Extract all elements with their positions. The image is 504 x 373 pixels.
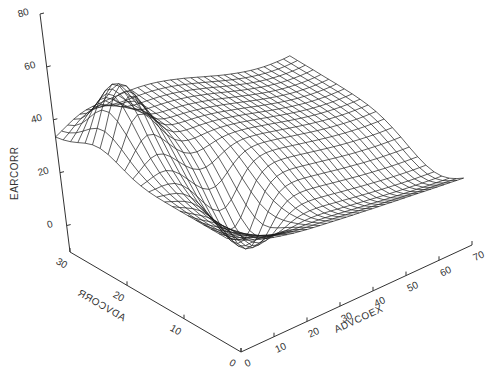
- z-tick-label: 40: [30, 112, 44, 126]
- mesh-line: [62, 128, 234, 239]
- mesh-line: [219, 179, 457, 238]
- y-tick-label: 10: [168, 322, 184, 337]
- z-axis-title: EARCORR: [9, 146, 20, 200]
- z-tick: [67, 225, 71, 226]
- z-tick-label: 60: [23, 59, 37, 73]
- mesh-line: [290, 56, 464, 179]
- z-tick: [53, 119, 57, 120]
- mesh-line: [112, 98, 288, 246]
- mesh-line: [74, 94, 248, 240]
- z-axis-line: [40, 14, 70, 252]
- y-tick-label: 20: [111, 289, 127, 304]
- surface-plot: 0102030405060700102030020406080 EARCORR …: [0, 0, 504, 373]
- x-tick-label: 10: [273, 340, 288, 355]
- wireframe-mesh: [56, 56, 464, 249]
- z-tick-label: 80: [16, 6, 30, 20]
- x-tick-label: 60: [438, 264, 453, 279]
- mesh-line: [196, 172, 434, 239]
- mesh-line: [238, 73, 412, 196]
- x-tick-label: 20: [306, 325, 321, 340]
- x-tick-label: 50: [405, 279, 420, 294]
- mesh-line: [177, 79, 353, 215]
- y-tick-label: 30: [54, 255, 70, 270]
- mesh-line: [277, 62, 451, 183]
- mesh-line: [63, 61, 297, 140]
- z-tick: [40, 13, 44, 14]
- y-tick-label: 0: [228, 357, 239, 370]
- x-tick-label: 70: [471, 248, 486, 263]
- z-tick-label: 0: [46, 218, 55, 230]
- z-tick: [47, 66, 51, 67]
- mesh-line: [271, 64, 445, 185]
- z-tick: [60, 172, 64, 173]
- tick-labels: 0102030405060700102030020406080: [16, 6, 486, 370]
- z-tick-label: 20: [36, 164, 50, 178]
- x-axis-line: [241, 245, 472, 352]
- mesh-line: [283, 59, 457, 181]
- x-tick-label: 0: [243, 356, 253, 369]
